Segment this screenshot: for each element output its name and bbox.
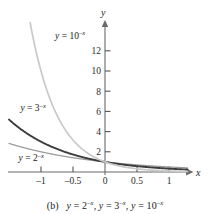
y-tick-group: 24681012 [92, 46, 111, 157]
exponential-decay-figure: x y –1–0.500.51 24681012 y = 2–xy = 3–xy… [0, 0, 210, 214]
y-axis-label: y [100, 7, 106, 18]
curve-label-base-2: y = 2–x [18, 152, 44, 163]
caption-index: (b) [47, 200, 59, 211]
curve-base-10 [30, 23, 187, 172]
plot-area: x y –1–0.500.51 24681012 y = 2–xy = 3–xy… [0, 0, 210, 214]
x-tick-label: –0.5 [64, 176, 82, 186]
figure-caption: (b) y = 2–x, y = 3–x, y = 10–x [0, 200, 210, 211]
x-tick-label: 1 [167, 176, 172, 186]
y-tick-label: 2 [96, 147, 101, 157]
y-tick-label: 4 [96, 127, 101, 137]
x-tick-label: 0 [103, 176, 108, 186]
curve-label-base-10: y = 10–x [54, 29, 85, 40]
y-tick-label: 10 [92, 66, 102, 76]
y-axis-arrowhead [102, 20, 109, 27]
y-tick-label: 8 [96, 87, 101, 97]
y-tick-label: 6 [96, 107, 101, 117]
curve-label-base-3: y = 3–x [20, 102, 46, 113]
x-tick-label: 0.5 [131, 176, 143, 186]
y-tick-label: 12 [92, 46, 102, 56]
x-tick-label: –1 [35, 176, 46, 186]
x-axis-label: x [195, 167, 201, 178]
caption-formulas: y = 2–x, y = 3–x, y = 10–x [61, 200, 163, 211]
